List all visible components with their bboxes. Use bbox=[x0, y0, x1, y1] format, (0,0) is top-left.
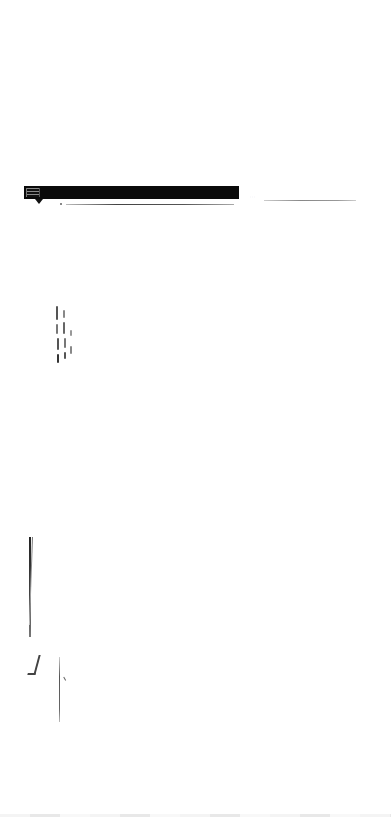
scribble-mark bbox=[56, 324, 58, 334]
vertical-text-block: [illegible rotated text] bbox=[54, 302, 74, 364]
scribble-mark bbox=[63, 322, 65, 334]
scribble-mark bbox=[70, 330, 72, 336]
underline-left-text: [illegible] bbox=[66, 204, 67, 205]
bottom-edge-band bbox=[0, 814, 391, 817]
scribble-mark bbox=[57, 338, 59, 350]
scribble-mark bbox=[64, 352, 66, 359]
vertical-needle-mark: [illegible] bbox=[28, 537, 33, 667]
header-bar-icon bbox=[26, 188, 40, 197]
header-bar: [illegible] bbox=[24, 186, 239, 199]
header-side-label: ··· bbox=[250, 195, 256, 199]
pointer-icon bbox=[35, 199, 43, 204]
stem-tick bbox=[63, 675, 68, 680]
scribble-mark bbox=[64, 338, 66, 348]
underline-right-text: [illegible] bbox=[264, 200, 265, 201]
header-bar-text: [illegible] bbox=[24, 186, 25, 187]
header-underline-left: [illegible] bbox=[66, 204, 234, 205]
header-underline-right: [illegible] bbox=[264, 200, 356, 201]
scribble-mark bbox=[70, 346, 72, 354]
vertical-text: [illegible rotated text] bbox=[54, 302, 55, 303]
vertical-stem-mark bbox=[59, 657, 60, 722]
scribble-mark bbox=[56, 306, 58, 320]
scribble-mark bbox=[63, 310, 65, 318]
underline-marker bbox=[60, 203, 62, 205]
scribble-mark bbox=[57, 354, 59, 363]
